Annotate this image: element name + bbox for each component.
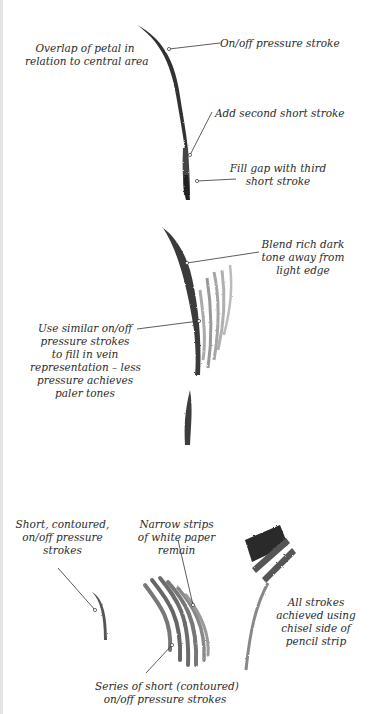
label-narrow-strips: Narrow strips of white paper remain [134, 518, 219, 557]
short-contoured-stroke [92, 592, 107, 640]
label-short-contoured: Short, contoured, on/off pressure stroke… [15, 518, 110, 557]
label-blend-rich-dark: Blend rich dark tone away from light edg… [258, 238, 348, 277]
label-add-second-stroke: Add second short stroke [215, 107, 345, 120]
petal-tone-strokes [163, 228, 231, 445]
series-of-short-strokes [145, 578, 208, 665]
label-series-of-short: Series of short (contoured) on/off press… [95, 680, 235, 706]
label-use-similar: Use similar on/off pressure strokes to f… [30, 322, 140, 400]
label-fill-gap: Fill gap with third short stroke [228, 162, 328, 188]
label-all-strokes: All strokes achieved using chisel side o… [276, 596, 356, 648]
label-onoff-pressure-stroke: On/off pressure stroke [220, 37, 340, 50]
label-overlap: Overlap of petal in relation to central … [25, 42, 145, 68]
